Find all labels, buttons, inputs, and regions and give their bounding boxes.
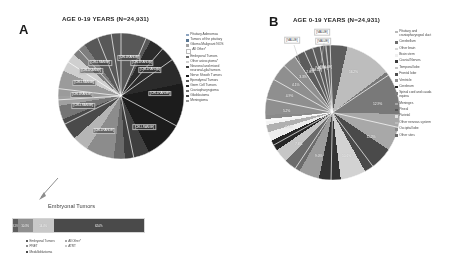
legend-item[interactable]: Other nervous system: [395, 121, 459, 125]
legend-item[interactable]: Occipital lobe: [395, 127, 459, 131]
bar-legend-item[interactable]: All Other*: [65, 239, 81, 243]
legend-swatch-icon: [186, 75, 189, 78]
panel-b: B AGE 0-19 YEARS (N=24,931) 16.2%12.9%11…: [230, 0, 461, 260]
bar-legend-swatch-icon: [65, 245, 67, 247]
legend-swatch-icon: [395, 115, 398, 118]
legend-swatch-icon: [395, 54, 398, 57]
legend-swatch-icon: [186, 95, 189, 98]
legend-item[interactable]: Pineal: [395, 108, 459, 112]
legend-swatch-icon: [395, 31, 398, 34]
legend-item[interactable]: Spinal cord and cauda equina: [395, 91, 459, 99]
stacked-bar-segment[interactable]: 10.3%: [18, 219, 33, 232]
legend-item-label: Cranial Nerves: [399, 59, 420, 63]
bar-legend-item[interactable]: ATRT: [65, 244, 81, 248]
bar-legend-swatch-icon: [26, 240, 28, 242]
legend-item[interactable]: Meninges: [395, 102, 459, 106]
legend-swatch-icon: [395, 103, 398, 106]
pie-slice-label: 11.2%: [367, 135, 376, 139]
pie-slice-label: [CELLRANGE]: [72, 103, 95, 109]
legend-item-label: Other brain: [399, 47, 415, 51]
embryonal-callout-arrow: [36, 176, 62, 202]
pie-slice-label: [CELLRANGE]: [73, 80, 96, 86]
pie-slice-label: 6.1%: [285, 125, 292, 129]
embryonal-stacked-bar[interactable]: 3.1%10.3%14.4%62.0%: [12, 218, 145, 233]
panel-a-letter: A: [19, 22, 29, 37]
legend-item[interactable]: Brain stem: [395, 53, 459, 57]
embryonal-bar-legend: Embryonal TumorsPNETMedulloblastoma All …: [26, 239, 81, 254]
pie-slice-label: 9.0%: [315, 154, 322, 158]
legend-item-label: Other nervous system: [399, 121, 431, 125]
bar-legend-label: PNET: [29, 244, 37, 248]
legend-item[interactable]: Frontal lobe: [395, 72, 459, 76]
legend-swatch-icon: [186, 49, 191, 54]
legend-item[interactable]: Other sites: [395, 134, 459, 138]
legend-swatch-icon: [395, 73, 398, 76]
legend-item[interactable]: Cerebrum: [395, 85, 459, 89]
legend-item[interactable]: Other brain: [395, 47, 459, 51]
bar-legend-label: ATRT: [68, 244, 76, 248]
legend-item[interactable]: Pituitary and craniopharyngeal duct: [395, 30, 459, 38]
stacked-bar-value-label: 62.0%: [95, 224, 103, 228]
pie-slice-label: 7.6%: [295, 142, 302, 146]
stacked-bar-segment[interactable]: 14.4%: [33, 219, 54, 232]
legend-item[interactable]: Parietal: [395, 114, 459, 118]
legend-item-label: Meninges: [399, 102, 413, 106]
panel-a-title: AGE 0-19 YEARS (N=24,931): [62, 15, 149, 22]
stacked-bar-value-label: 14.4%: [39, 224, 47, 228]
legend-item-label: Pituitary and craniopharyngeal duct: [399, 30, 431, 38]
stacked-bar-segment[interactable]: 62.0%: [54, 219, 144, 232]
legend-item-label: Temporal lobe: [399, 66, 419, 70]
legend-item[interactable]: Ventricle: [395, 79, 459, 83]
legend-item-label: Parietal: [399, 114, 410, 118]
pie-slice-label: 16.2%: [349, 70, 358, 74]
pie-slice-label: [CELLRANGE]: [133, 124, 156, 130]
pie-slice-label: [VALUE]: [320, 65, 332, 69]
legend-item-label: Cerebrum: [399, 85, 413, 89]
legend-swatch-icon: [395, 92, 398, 95]
bar-legend-column-1: Embryonal TumorsPNETMedulloblastoma: [26, 239, 55, 254]
pie-slice-label: 3.3%: [299, 75, 306, 79]
legend-item-label: Neuronal and mixed neuronal-glial tumors: [190, 65, 220, 73]
panel-a-pie-chart[interactable]: [CELLRANGE][CELLRANGE][CELLRANGE][CELLRA…: [58, 33, 184, 159]
figure-root: A AGE 0-19 YEARS (N=24,931) [CELLRANGE][…: [0, 0, 461, 260]
bar-legend-swatch-icon: [65, 240, 67, 242]
bar-legend-label: Embryonal Tumors: [29, 239, 54, 243]
panel-b-title: AGE 0-19 YEARS (N=24,931): [293, 16, 380, 23]
legend-swatch-icon: [395, 122, 398, 125]
bar-legend-item[interactable]: Medulloblastoma: [26, 250, 55, 254]
embryonal-callout-title: Embryonal Tumors: [48, 203, 95, 209]
legend-item[interactable]: Temporal lobe: [395, 66, 459, 70]
legend-swatch-icon: [186, 56, 189, 59]
pie-slice-label: [CELLRANGE]: [89, 60, 112, 66]
pie-slice-label: 5.2%: [283, 109, 290, 113]
legend-swatch-icon: [395, 86, 398, 89]
stacked-bar-value-label: 10.3%: [21, 224, 29, 228]
bar-legend-label: All Other*: [68, 239, 81, 243]
bar-legend-item[interactable]: Embryonal Tumors: [26, 239, 55, 243]
legend-item[interactable]: Cerebellum: [395, 40, 459, 44]
legend-item-label: Pineal: [399, 108, 408, 112]
pie-slice-label: [CELLRANGE]: [80, 68, 103, 74]
pie-slice-label: 10.6%: [342, 154, 351, 158]
pie-slice-label: [CELLRANGE]: [92, 128, 115, 134]
pie-slice-label: [CELLRANGE]: [148, 91, 171, 97]
legend-swatch-icon: [186, 44, 189, 47]
bar-legend-label: Medulloblastoma: [29, 250, 52, 254]
legend-swatch-icon: [395, 60, 398, 63]
panel-a: A AGE 0-19 YEARS (N=24,931) [CELLRANGE][…: [0, 0, 231, 260]
pie-slice-label: 4.1%: [292, 83, 299, 87]
legend-swatch-icon: [186, 100, 189, 103]
bar-legend-column-2: All Other*ATRT: [65, 239, 81, 254]
legend-swatch-icon: [395, 79, 398, 82]
bar-legend-item[interactable]: PNET: [26, 244, 55, 248]
legend-swatch-icon: [186, 39, 189, 42]
legend-swatch-icon: [186, 90, 189, 93]
panel-b-pie-chart[interactable]: 16.2%12.9%11.2%10.6%9.0%7.6%6.1%5.2%4.9%…: [265, 45, 400, 180]
legend-swatch-icon: [395, 41, 398, 44]
legend-item-label: Ventricle: [399, 79, 411, 83]
legend-item[interactable]: Cranial Nerves: [395, 59, 459, 63]
pie-slice-label: 4.9%: [286, 94, 293, 98]
panel-b-legend: Pituitary and craniopharyngeal ductCereb…: [395, 30, 459, 140]
legend-item-label: Occipital lobe: [399, 127, 418, 131]
legend-swatch-icon: [186, 80, 189, 83]
